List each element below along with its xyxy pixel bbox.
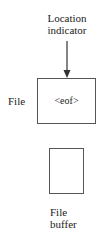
file-box: <eof> (37, 78, 96, 124)
file-buffer-box (49, 148, 84, 194)
file-buffer-line1: File (50, 206, 84, 218)
file-buffer-label: File buffer (50, 206, 84, 230)
file-label: File (8, 95, 25, 107)
eof-marker: <eof> (38, 95, 95, 107)
file-buffer-line2: buffer (50, 218, 84, 230)
